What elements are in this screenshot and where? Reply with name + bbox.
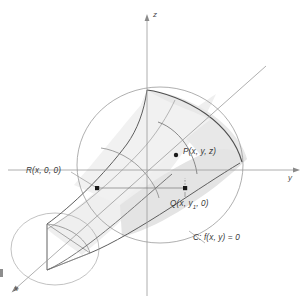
point-Q-label-args-pre: (x, y [177, 199, 193, 208]
point-P-label: P(x, y, z) [183, 148, 216, 156]
point-Q-label: Q(x, y1, 0) [170, 200, 209, 210]
point-R-dot [95, 186, 99, 190]
x-axis-line [14, 66, 266, 290]
z-axis-arrowhead [145, 14, 150, 21]
figure-container: z y x P(x, y, z) Q(x, y1, 0) R(x, 0, 0) … [0, 0, 308, 306]
x-axis-label: x [14, 285, 18, 293]
y-axis-label: y [288, 174, 292, 182]
point-P-dot [174, 153, 178, 157]
point-R-label: R(x, 0, 0) [26, 167, 61, 175]
z-axis-label: z [153, 11, 157, 19]
point-Q-label-args-post: , 0) [196, 199, 208, 208]
curve-C-label: C: f(x, y) = 0 [193, 234, 240, 242]
diagram-canvas [0, 0, 308, 306]
page-edge-artifact [0, 269, 3, 277]
y-axis-arrowhead [293, 168, 300, 173]
point-Q-dot [183, 186, 187, 190]
